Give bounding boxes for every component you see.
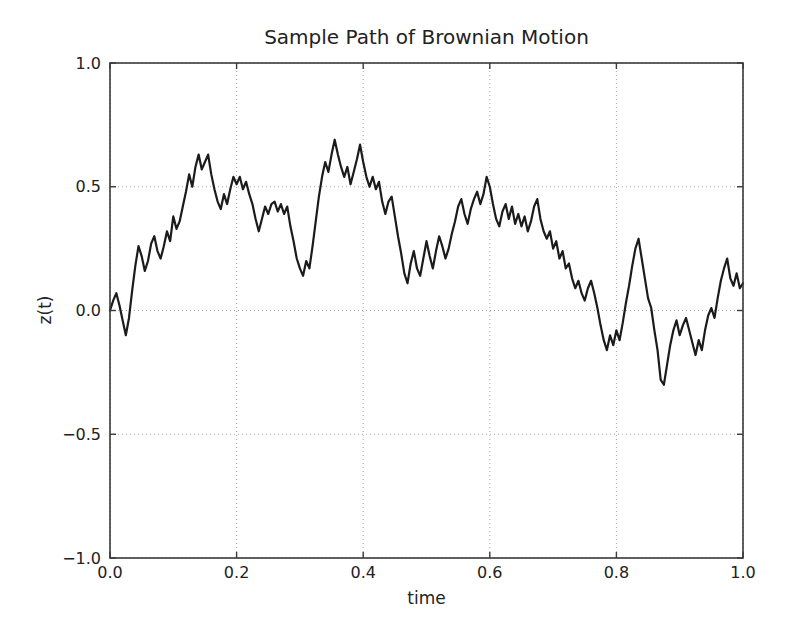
x-tick-label: 0.8	[604, 563, 629, 582]
brownian-path-line	[110, 140, 743, 385]
x-tick-label: 1.0	[730, 563, 755, 582]
x-tick-label: 0.0	[97, 563, 122, 582]
x-tick-label: 0.6	[477, 563, 502, 582]
x-axis-label: time	[110, 588, 743, 608]
plot-area: 0.00.20.40.60.81.0−1.0−0.50.00.51.0	[0, 0, 794, 636]
y-tick-label: 0.5	[76, 177, 101, 196]
figure: Sample Path of Brownian Motion z(t) 0.00…	[0, 0, 794, 636]
y-tick-label: 1.0	[76, 54, 101, 73]
y-tick-label: 0.0	[76, 301, 101, 320]
x-tick-label: 0.2	[224, 563, 249, 582]
y-tick-label: −0.5	[62, 425, 101, 444]
x-tick-label: 0.4	[350, 563, 375, 582]
y-tick-label: −1.0	[62, 549, 101, 568]
